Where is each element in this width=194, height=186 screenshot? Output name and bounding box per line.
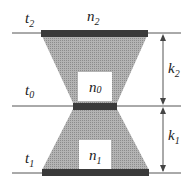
label-k2: k2	[168, 60, 180, 79]
arrowhead-up-icon	[160, 107, 166, 114]
label-t2: t2	[25, 10, 34, 29]
middle-bar	[73, 103, 117, 110]
dimension-k2	[160, 34, 166, 105]
dimension-k1	[160, 107, 166, 172]
label-k1: k1	[168, 127, 180, 146]
arrowhead-down-icon	[160, 98, 166, 105]
arrowhead-up-icon	[160, 34, 166, 41]
bottom-bar	[42, 169, 149, 176]
label-n2: n2	[87, 8, 100, 27]
top-bar	[41, 30, 148, 37]
arrowhead-down-icon	[160, 165, 166, 172]
hourglass-diagram: t2 t0 t1 n2 n0 n1 k2 k1	[0, 0, 194, 186]
label-t1: t1	[25, 150, 34, 169]
label-t0: t0	[25, 82, 34, 100]
